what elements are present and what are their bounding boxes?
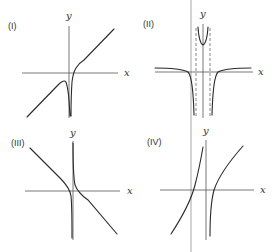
- panel-ii: (II) y x: [143, 8, 264, 118]
- x-axis-label: x: [258, 66, 264, 77]
- panel-iv: (IV) y x: [147, 125, 266, 240]
- x-axis-label: x: [260, 184, 266, 195]
- curve-right: [212, 68, 251, 115]
- curve-left: [155, 68, 194, 115]
- curve-right: [73, 143, 117, 234]
- y-axis-label: y: [199, 8, 206, 19]
- y-axis-label: y: [202, 125, 209, 136]
- x-axis-label: x: [127, 185, 133, 196]
- curve-right: [210, 146, 243, 236]
- panel-i: (I) y x: [8, 10, 130, 118]
- panel-label: (IV): [147, 137, 162, 147]
- panel-label: (II): [143, 19, 154, 29]
- panel-label: (III): [11, 138, 25, 148]
- panel-label: (I): [8, 21, 17, 31]
- function-graphs-figure: (I) y x (II) y x (III) y x (IV) y x: [0, 0, 274, 252]
- curve-left: [30, 148, 72, 238]
- y-axis-label: y: [69, 127, 76, 138]
- panel-iii: (III) y x: [11, 127, 133, 240]
- x-axis-label: x: [124, 67, 130, 78]
- curve-left: [171, 147, 203, 234]
- y-axis-label: y: [65, 10, 72, 21]
